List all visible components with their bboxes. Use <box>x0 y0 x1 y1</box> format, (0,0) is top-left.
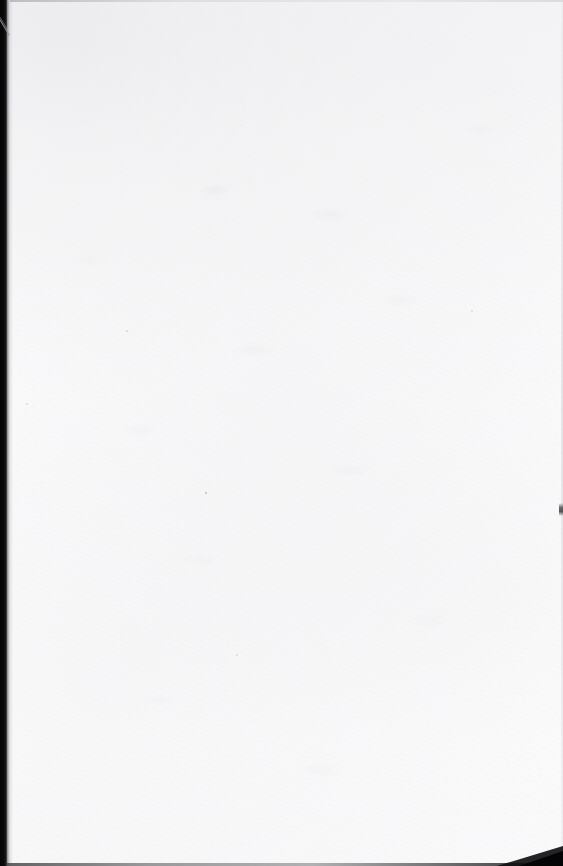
paper-speck <box>236 654 238 656</box>
paper-speck <box>126 330 128 332</box>
paper-speck <box>26 403 28 405</box>
paper-speck <box>471 310 473 312</box>
scanned-page <box>0 0 563 866</box>
page-edge-top <box>10 0 563 2</box>
scanner-gutter-band <box>0 0 7 866</box>
right-edge-nick <box>559 503 563 516</box>
scanner-gutter-falloff <box>7 0 13 866</box>
paper-speck <box>205 492 207 494</box>
page-body-text <box>40 60 520 800</box>
